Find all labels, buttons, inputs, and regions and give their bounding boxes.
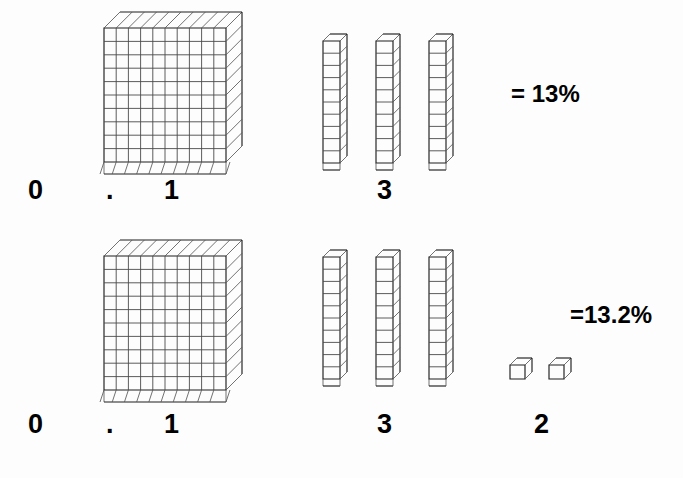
digit-hundredths-row1: 3: [377, 177, 392, 204]
flat-block-row1: [104, 10, 249, 168]
result-label-row2: =13.2%: [570, 303, 652, 327]
rod-block-row2-1: [323, 248, 353, 386]
rod-block-row1-3: [429, 32, 459, 170]
digit-hundredths-row2: 3: [377, 411, 392, 438]
digit-tenths-row1: 1: [164, 177, 179, 204]
digit-tenths-row2: 1: [164, 411, 179, 438]
rod-block-row2-2: [376, 248, 406, 386]
decimal-point-row1: .: [106, 177, 114, 204]
decimal-point-row2: .: [106, 411, 114, 438]
flat-block-row2: [104, 238, 249, 396]
place-value-row-2: 0 . 1 3 2 =13.2%: [0, 228, 683, 478]
unit-cube-row2-2: [548, 356, 576, 382]
rod-block-row1-1: [323, 32, 353, 170]
digit-ones-row2: 0: [28, 411, 43, 438]
digit-ones-row1: 0: [28, 177, 43, 204]
digit-thousandths-row2: 2: [534, 411, 549, 438]
result-label-row1: = 13%: [511, 82, 580, 106]
place-value-row-1: 0 . 1 3 = 13%: [0, 0, 683, 222]
unit-cube-row2-1: [509, 356, 537, 382]
figure-canvas: 0 . 1 3 = 13% 0 . 1: [0, 0, 683, 478]
rod-block-row2-3: [429, 248, 459, 386]
rod-block-row1-2: [376, 32, 406, 170]
